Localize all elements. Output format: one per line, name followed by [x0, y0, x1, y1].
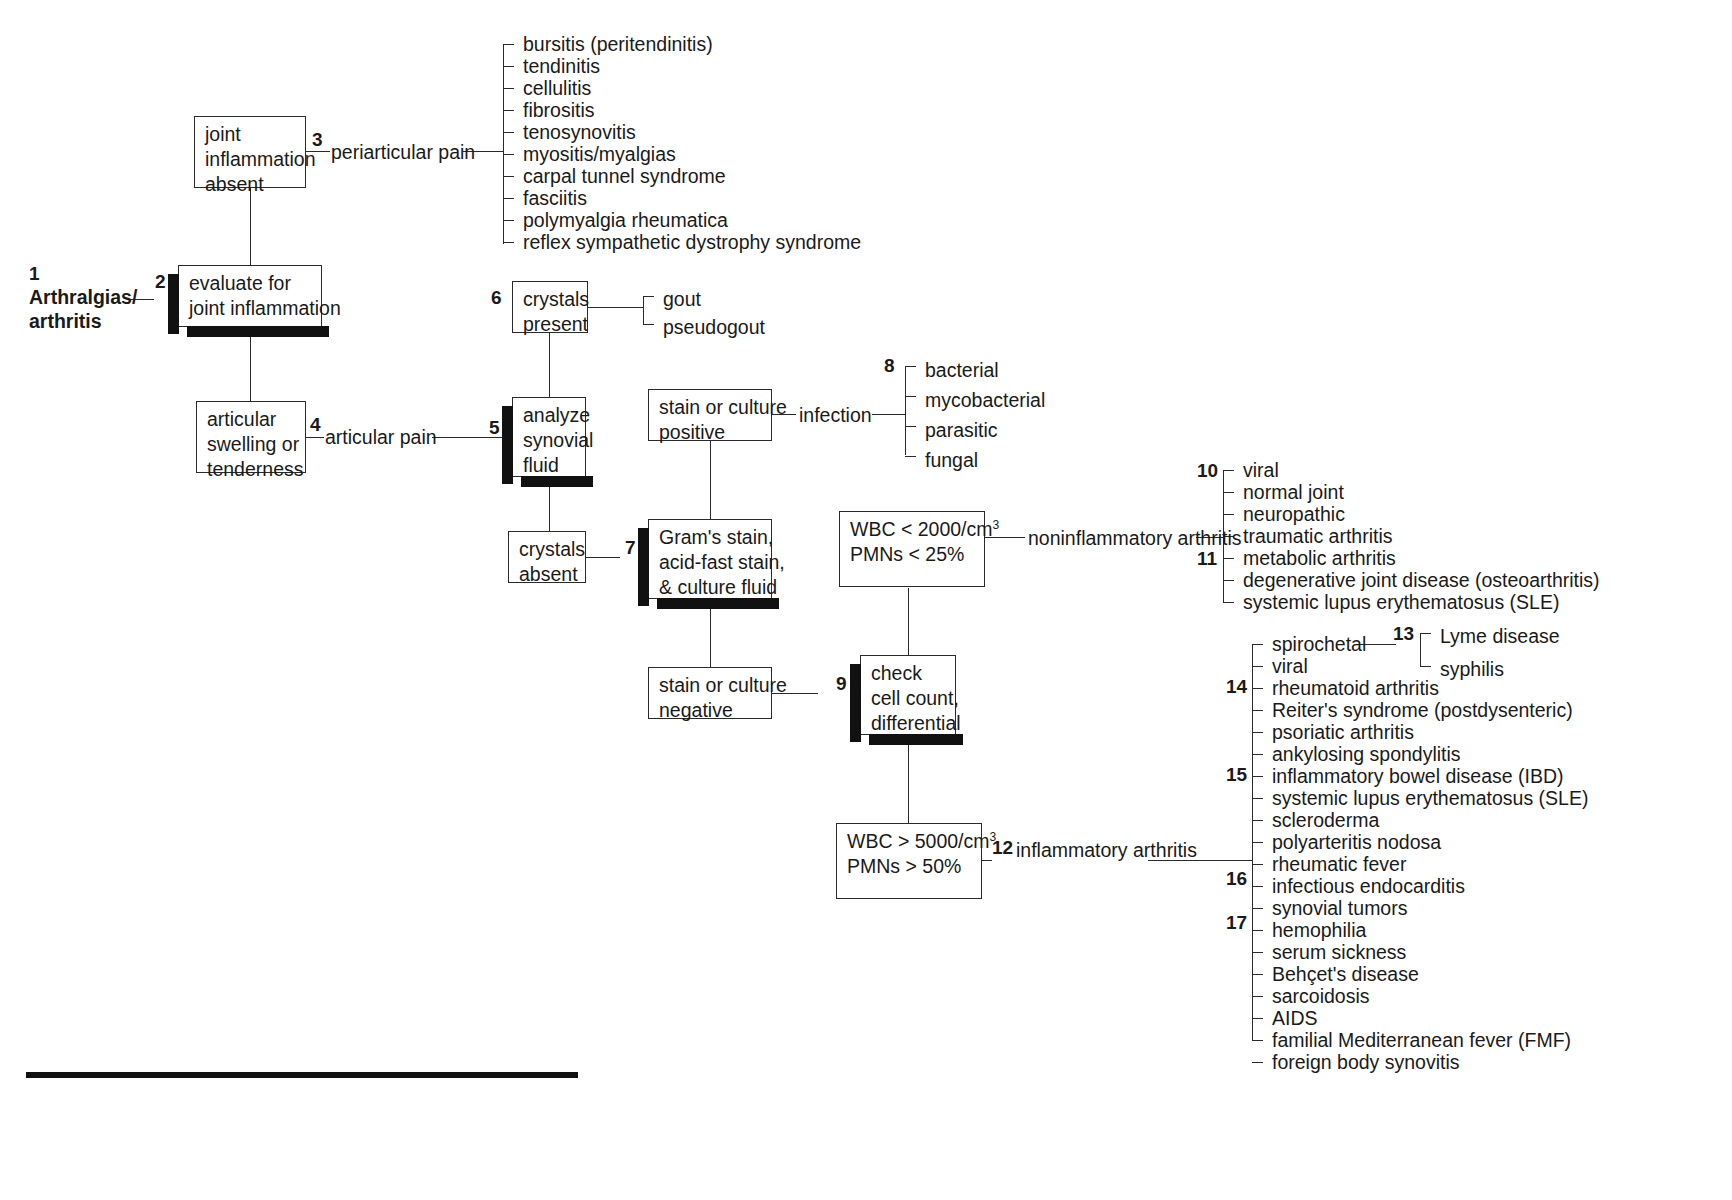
- list-item: Behçet's disease: [1252, 963, 1588, 985]
- step-number-11: 11: [1197, 549, 1217, 568]
- list-item: gout: [643, 285, 765, 313]
- root-label: Arthralgias/ arthritis: [29, 285, 137, 333]
- list-item: myositis/myalgias: [503, 143, 861, 165]
- node-analyze-synovial-fluid[interactable]: analyze synovial fluid: [512, 397, 586, 477]
- diagram-canvas: 1 Arthralgias/ arthritis 2 evaluate for …: [0, 0, 1732, 1200]
- list-item: bursitis (peritendinitis): [503, 33, 861, 55]
- list-item: ankylosing spondylitis: [1252, 743, 1588, 765]
- node-wbc-high-line1: WBC > 5000/cm3: [847, 830, 996, 852]
- list-item: synovial tumors: [1252, 897, 1588, 919]
- list-item: syphilis: [1420, 655, 1560, 688]
- edge-label-inflammatory-arthritis: inflammatory arthritis: [1016, 838, 1197, 862]
- list-spirochetal: Lyme disease syphilis: [1420, 622, 1560, 688]
- node-grams-line2: acid-fast stain,: [659, 551, 785, 573]
- edge-wbc-high-to-label: [982, 860, 992, 861]
- node-jia-line1: joint: [205, 123, 241, 145]
- step-number-6: 6: [491, 288, 502, 307]
- list-item: carpal tunnel syndrome: [503, 165, 861, 187]
- node-evaluate-line2: joint inflammation: [189, 297, 341, 319]
- list-item: polyarteritis nodosa: [1252, 831, 1588, 853]
- node-articular-swelling[interactable]: articular swelling or tenderness: [196, 401, 306, 473]
- list-item: viral: [1223, 459, 1600, 481]
- edge-grams-to-stain-positive: [710, 441, 711, 519]
- node-stain-culture-negative[interactable]: stain or culture negative: [648, 667, 772, 719]
- list-item: normal joint: [1223, 481, 1600, 503]
- node-check-cell-count[interactable]: check cell count, differential: [860, 655, 956, 735]
- step-number-8: 8: [884, 356, 895, 375]
- list-item: bacterial: [905, 355, 1045, 385]
- node-joint-inflammation-absent[interactable]: joint inflammation absent: [194, 116, 306, 188]
- step-number-17: 17: [1226, 913, 1247, 932]
- node-wbc-low[interactable]: WBC < 2000/cm3 PMNs < 25%: [839, 511, 985, 587]
- node-evaluate-joint-inflammation[interactable]: evaluate for joint inflammation: [178, 265, 322, 327]
- list-item: pseudogout: [643, 313, 765, 341]
- node-check-line3: differential: [871, 712, 961, 734]
- node-analyze-line2: synovial: [523, 429, 593, 451]
- node-grams-stain[interactable]: Gram's stain, acid-fast stain, & culture…: [648, 519, 772, 599]
- edge-evaluate-to-articular: [250, 327, 251, 401]
- list-item: serum sickness: [1252, 941, 1588, 963]
- node-wbc-high[interactable]: WBC > 5000/cm3 PMNs > 50%: [836, 823, 982, 899]
- node-stain-culture-positive[interactable]: stain or culture positive: [648, 389, 772, 441]
- step-number-15: 15: [1226, 765, 1247, 784]
- list-item: polymyalgia rheumatica: [503, 209, 861, 231]
- node-wbc-low-exponent: 3: [993, 518, 1000, 532]
- node-jia-line3: absent: [205, 173, 264, 195]
- node-grams-line3: & culture fluid: [659, 576, 777, 598]
- node-stain-pos-line1: stain or culture: [659, 396, 787, 418]
- step-number-1: 1: [29, 264, 40, 283]
- list-item: reflex sympathetic dystrophy syndrome: [503, 231, 861, 253]
- list-item: hemophilia: [1252, 919, 1588, 941]
- step-number-9: 9: [836, 674, 847, 693]
- step-number-2: 2: [155, 272, 166, 291]
- node-check-line2: cell count,: [871, 687, 959, 709]
- edge-crystals-absent-to-grams: [586, 557, 620, 558]
- list-item: fungal: [905, 445, 1045, 475]
- list-item: inflammatory bowel disease (IBD): [1252, 765, 1588, 787]
- list-item: infectious endocarditis: [1252, 875, 1588, 897]
- list-item: rheumatic fever: [1252, 853, 1588, 875]
- node-jia-line2: inflammation: [205, 148, 316, 170]
- list-noninflammatory: viral normal joint neuropathic traumatic…: [1223, 459, 1600, 613]
- edge-grams-to-stain-negative: [710, 599, 711, 667]
- list-item: tendinitis: [503, 55, 861, 77]
- node-stain-pos-line2: positive: [659, 421, 725, 443]
- node-wbc-low-line2: PMNs < 25%: [850, 543, 964, 565]
- list-item: mycobacterial: [905, 385, 1045, 415]
- root-label-line1: Arthralgias/: [29, 286, 137, 308]
- list-item: metabolic arthritis: [1223, 547, 1600, 569]
- node-analyze-line1: analyze: [523, 404, 590, 426]
- node-stain-neg-line2: negative: [659, 699, 733, 721]
- list-item: neuropathic: [1223, 503, 1600, 525]
- list-item: psoriatic arthritis: [1252, 721, 1588, 743]
- edge-crystals-present-to-list: [588, 307, 643, 308]
- list-item: systemic lupus erythematosus (SLE): [1223, 591, 1600, 613]
- step-number-13: 13: [1393, 624, 1414, 643]
- node-crystals-absent-line2: absent: [519, 563, 578, 585]
- node-crystals-absent[interactable]: crystals absent: [508, 531, 586, 583]
- list-item: systemic lupus erythematosus (SLE): [1252, 787, 1588, 809]
- step-number-4: 4: [310, 415, 321, 434]
- edge-label-infection: infection: [799, 403, 872, 427]
- edge-check-to-wbc-low: [908, 588, 909, 655]
- step-number-3: 3: [312, 130, 323, 149]
- list-item: tenosynovitis: [503, 121, 861, 143]
- list-infection: bacterial mycobacterial parasitic fungal: [905, 355, 1045, 475]
- list-item: traumatic arthritis: [1223, 525, 1600, 547]
- node-crystals-present[interactable]: crystals present: [512, 281, 588, 333]
- list-item: fasciitis: [503, 187, 861, 209]
- list-item: foreign body synovitis: [1252, 1051, 1588, 1073]
- root-label-line2: arthritis: [29, 310, 102, 332]
- bottom-rule: [26, 1072, 578, 1078]
- edge-label-periarticular-pain: periarticular pain: [331, 140, 475, 164]
- list-item: AIDS: [1252, 1007, 1588, 1029]
- node-check-line1: check: [871, 662, 922, 684]
- list-item: sarcoidosis: [1252, 985, 1588, 1007]
- step-number-5: 5: [489, 418, 500, 437]
- node-articular-line2: swelling or: [207, 433, 299, 455]
- node-crystals-present-line1: crystals: [523, 288, 589, 310]
- node-wbc-low-line1: WBC < 2000/cm3: [850, 518, 999, 540]
- step-number-14: 14: [1226, 677, 1247, 696]
- list-item: cellulitis: [503, 77, 861, 99]
- list-periarticular: bursitis (peritendinitis) tendinitis cel…: [503, 33, 861, 253]
